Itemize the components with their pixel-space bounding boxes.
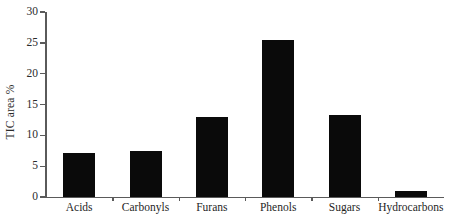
y-tick-mark xyxy=(40,166,45,167)
bar xyxy=(63,153,95,197)
x-tick-label: Sugars xyxy=(311,201,377,213)
y-tick-label: 20 xyxy=(0,67,38,79)
x-tick-label: Phenols xyxy=(245,201,311,213)
y-tick-label: 25 xyxy=(0,36,38,48)
y-tick-label: 10 xyxy=(0,128,38,140)
x-tick-label: Acids xyxy=(46,201,112,213)
y-tick-mark xyxy=(40,73,45,74)
y-tick-mark xyxy=(40,196,45,197)
bar xyxy=(262,40,294,197)
bar-chart: TIC area % 051015202530 AcidsCarbonylsFu… xyxy=(0,0,449,224)
bar xyxy=(196,117,228,197)
y-tick-label: 30 xyxy=(0,5,38,17)
x-tick-label: Hydrocarbons xyxy=(378,201,444,213)
bar xyxy=(329,115,361,197)
x-tick-label: Carbonyls xyxy=(112,201,178,213)
y-tick-mark xyxy=(40,135,45,136)
y-tick-label: 5 xyxy=(0,159,38,171)
y-tick-label: 15 xyxy=(0,98,38,110)
y-tick-mark xyxy=(40,42,45,43)
y-tick-mark xyxy=(40,11,45,12)
y-tick-label: 0 xyxy=(0,190,38,202)
y-tick-mark xyxy=(40,104,45,105)
plot-area xyxy=(46,12,444,197)
bar xyxy=(395,191,427,197)
x-tick-label: Furans xyxy=(179,201,245,213)
bar xyxy=(130,151,162,197)
